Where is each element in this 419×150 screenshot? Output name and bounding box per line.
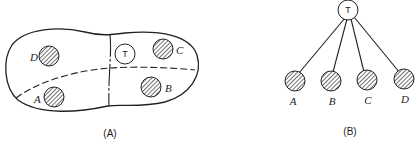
label-a: A: [33, 93, 41, 105]
edge-t-d: [354, 17, 400, 73]
label-c: C: [176, 44, 184, 56]
node-a: [44, 87, 64, 107]
label-d: D: [400, 93, 409, 105]
label-c: C: [364, 94, 372, 106]
node-d: [39, 46, 59, 66]
edge-t-a: [299, 18, 345, 73]
edge-t-b: [333, 19, 347, 72]
node-b: [321, 71, 341, 91]
caption-b: (B): [343, 126, 356, 137]
label-a: A: [289, 95, 297, 107]
node-a: [285, 71, 305, 91]
node-c: [357, 70, 377, 90]
node-b: [141, 77, 161, 97]
label-d: D: [29, 51, 38, 63]
label-t: T: [122, 49, 128, 59]
label-t: T: [345, 5, 351, 15]
node-c: [153, 39, 173, 59]
diagram-canvas: D T C A B (A) T A B C D (B): [0, 0, 419, 150]
panel-a: D T C A B (A): [6, 29, 199, 139]
caption-a: (A): [103, 128, 116, 139]
label-b: B: [165, 82, 172, 94]
panel-b: T A B C D (B): [285, 0, 414, 137]
vertical-divider: [109, 35, 111, 106]
label-b: B: [329, 95, 336, 107]
node-d: [394, 69, 414, 89]
